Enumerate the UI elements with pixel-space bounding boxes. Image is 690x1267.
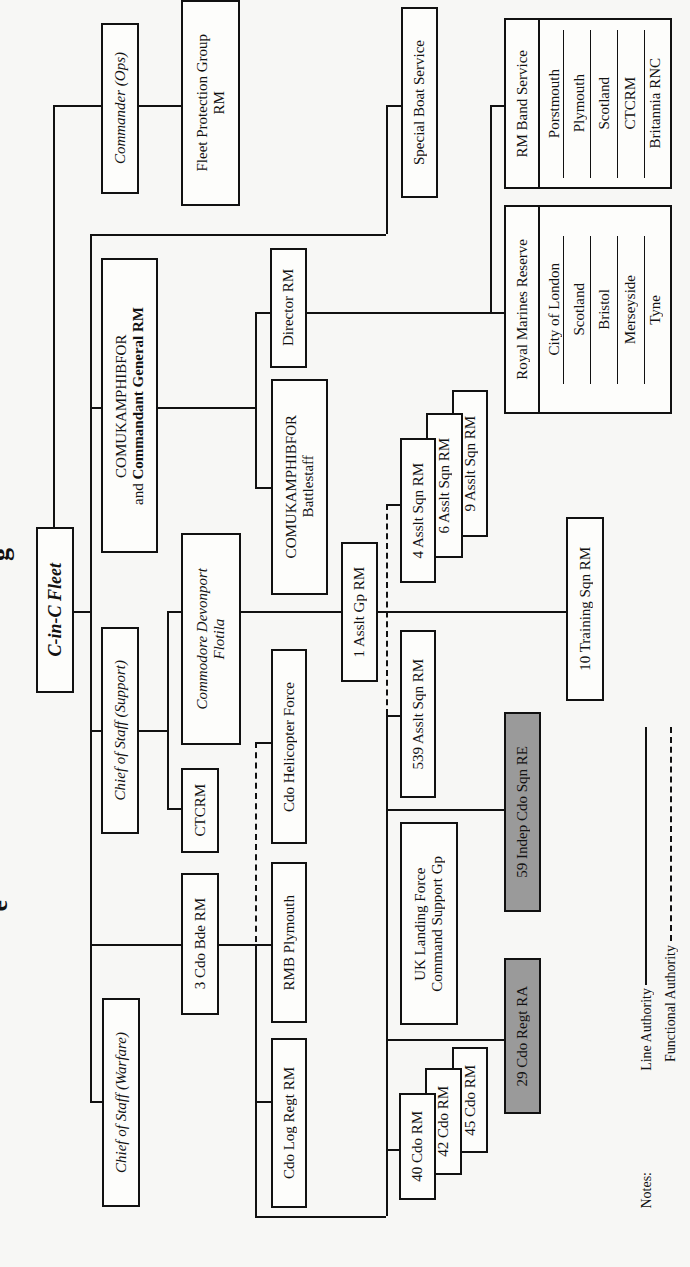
notes-label: Notes: bbox=[638, 1172, 655, 1209]
rm-reserve-title: Royal Marines Reserve bbox=[506, 207, 540, 412]
rm-band-title: RM Band Service bbox=[506, 20, 540, 187]
node-comukamphibfor-battlestaff: COMUKAMPHIBFORBattlestaff bbox=[271, 379, 328, 595]
title-fragment: e bbox=[0, 900, 7, 912]
node-29-cdo-regt: 29 Cdo Regt RA bbox=[504, 958, 541, 1114]
node-commodore-devonport-flotila: Commodore DevonportFlotila bbox=[181, 533, 241, 745]
node-10-training-sqn: 10 Training Sqn RM bbox=[566, 517, 604, 701]
rm-reserve-units: City of London Scotland Bristol Merseysi… bbox=[540, 207, 670, 412]
list-item: Porstmouth bbox=[546, 28, 563, 179]
node-4-asslt-sqn: 4 Asslt Sqn RM bbox=[400, 438, 436, 583]
node-cdo-log-regt: Cdo Log Regt RM bbox=[271, 1038, 307, 1208]
list-item: Bristol bbox=[596, 215, 613, 404]
rm-band-units: Porstmouth Plymouth Scotland CTCRM Brita… bbox=[540, 20, 670, 187]
node-59-indep-cdo-sqn: 59 Indep Cdo Sqn RE bbox=[504, 712, 541, 912]
legend-line-authority: Line Authority bbox=[638, 988, 655, 1071]
node-ctcrm: CTCRM bbox=[181, 768, 219, 853]
node-chief-of-staff-support: Chief of Staff (Support) bbox=[101, 627, 139, 834]
node-539-asslt-sqn: 539 Asslt Sqn RM bbox=[400, 630, 436, 798]
title-fragment: g bbox=[0, 548, 9, 561]
node-rmb-plymouth: RMB Plymouth bbox=[271, 862, 307, 1023]
list-item: Scotland bbox=[571, 215, 588, 404]
node-fleet-protection-group: Fleet Protection GroupRM bbox=[181, 0, 240, 206]
list-item: Tyne bbox=[647, 215, 664, 404]
list-item: Merseyside bbox=[622, 215, 639, 404]
legend-solid-line bbox=[645, 727, 647, 985]
list-item: Plymouth bbox=[571, 28, 588, 179]
node-director-rm: Director RM bbox=[270, 248, 307, 368]
list-item: City of London bbox=[546, 215, 563, 404]
rm-band-service-box: RM Band Service Porstmouth Plymouth Scot… bbox=[504, 18, 672, 189]
node-cinc-fleet: C-in-C Fleet bbox=[36, 527, 74, 693]
list-item: Britannia RNC bbox=[647, 28, 664, 179]
node-chief-of-staff-warfare: Chief of Staff (Warfare) bbox=[102, 998, 140, 1207]
legend-functional-authority: Functional Authority bbox=[662, 945, 679, 1062]
rm-reserve-box: Royal Marines Reserve City of London Sco… bbox=[504, 205, 672, 414]
list-item: Scotland bbox=[596, 28, 613, 179]
node-special-boat-service: Special Boat Service bbox=[401, 7, 438, 198]
node-1-asslt-gp: 1 Asslt Gp RM bbox=[341, 542, 378, 682]
node-commander-ops: Commander (Ops) bbox=[101, 23, 139, 194]
node-40-cdo: 40 Cdo RM bbox=[399, 1093, 436, 1200]
list-item: CTCRM bbox=[622, 28, 639, 179]
node-comukamphibfor-commandant-general: COMUKAMPHIBFORand Commandant General RM bbox=[101, 258, 158, 553]
legend-dashed-line bbox=[670, 727, 672, 941]
node-uk-landing-force-csg: UK Landing ForceCommand Support Gp bbox=[400, 822, 458, 1025]
node-cdo-helicopter-force: Cdo Helicopter Force bbox=[271, 649, 307, 844]
node-3-cdo-bde: 3 Cdo Bde RM bbox=[181, 873, 219, 1015]
